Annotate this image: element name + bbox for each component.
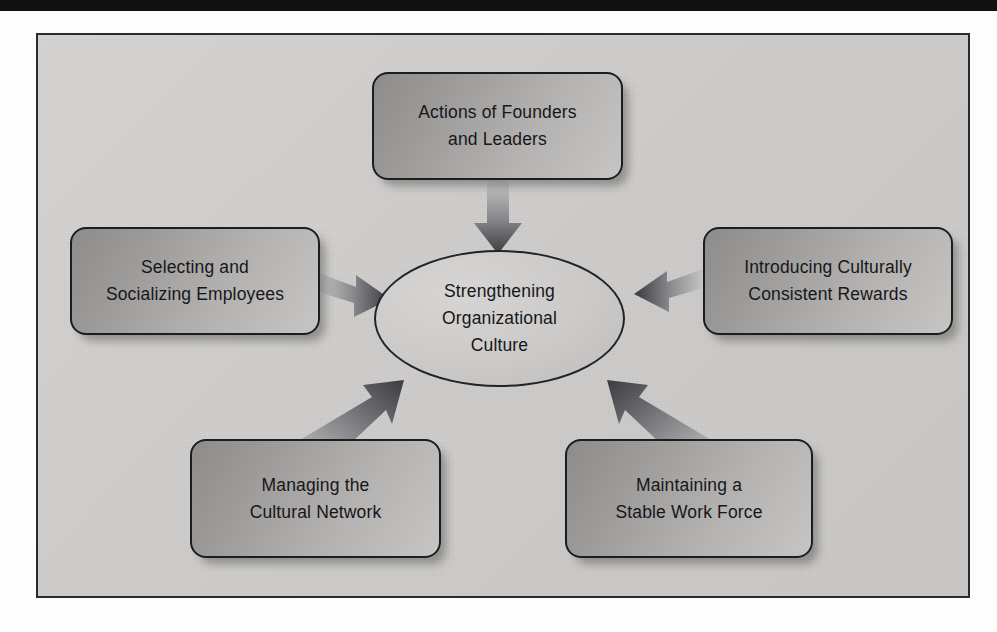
node-actions-of-founders-and-leaders[interactable]: Actions of Founders and Leaders bbox=[372, 72, 623, 180]
page-edge-black-bar bbox=[0, 0, 997, 11]
center-node-label: Strengthening Organizational Culture bbox=[442, 278, 557, 359]
center-node-strengthening-organizational-culture[interactable]: Strengthening Organizational Culture bbox=[374, 250, 625, 387]
diagram-frame: Actions of Founders and Leaders Selectin… bbox=[36, 33, 970, 598]
arrow-right-to-center bbox=[634, 268, 707, 312]
node-selecting-and-socializing-employees[interactable]: Selecting and Socializing Employees bbox=[70, 227, 320, 335]
node-label: Managing the Cultural Network bbox=[238, 472, 394, 525]
node-label: Introducing Culturally Consistent Reward… bbox=[732, 254, 924, 307]
scanned-page-background: Actions of Founders and Leaders Selectin… bbox=[0, 0, 997, 632]
node-label: Actions of Founders and Leaders bbox=[406, 99, 589, 152]
node-managing-the-cultural-network[interactable]: Managing the Cultural Network bbox=[190, 439, 441, 558]
node-maintaining-a-stable-work-force[interactable]: Maintaining a Stable Work Force bbox=[565, 439, 813, 558]
node-label: Maintaining a Stable Work Force bbox=[603, 472, 774, 525]
arrow-top-to-center bbox=[474, 177, 522, 254]
node-introducing-culturally-consistent-rewards[interactable]: Introducing Culturally Consistent Reward… bbox=[703, 227, 953, 335]
node-label: Selecting and Socializing Employees bbox=[94, 254, 296, 307]
scan-bleedthrough-text bbox=[120, 604, 820, 626]
